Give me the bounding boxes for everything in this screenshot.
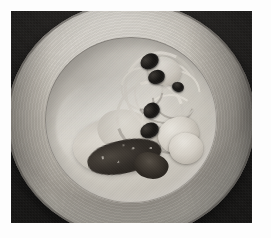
round-ceramic-plate bbox=[11, 11, 252, 223]
plate-well-rim-line bbox=[45, 37, 216, 202]
photo-white-mat bbox=[0, 0, 271, 238]
food-photograph bbox=[11, 11, 252, 223]
plate-inner-well bbox=[45, 37, 216, 202]
